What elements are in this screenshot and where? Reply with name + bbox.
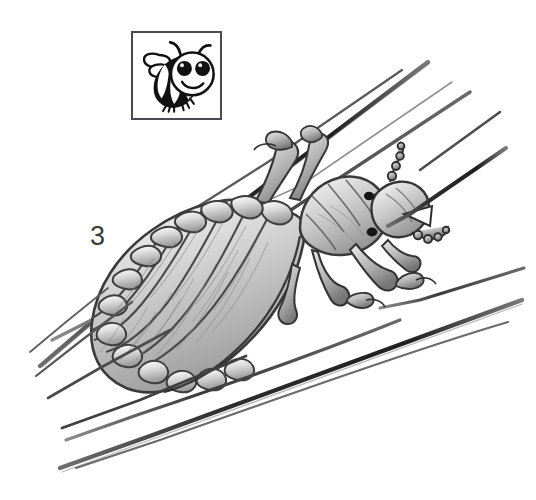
bee-head bbox=[171, 53, 214, 96]
cartoon-bee-icon bbox=[136, 36, 217, 115]
louse-eye-upper bbox=[364, 192, 374, 200]
louse-illustration bbox=[0, 0, 536, 500]
figure-page: 3 bbox=[0, 0, 536, 500]
bee-eye-left bbox=[177, 61, 192, 76]
louse-abdomen bbox=[91, 196, 305, 392]
bee-eye-right bbox=[195, 61, 210, 76]
louse-eye-lower bbox=[367, 228, 378, 237]
bee-logo-box bbox=[131, 31, 222, 120]
figure-number-label: 3 bbox=[90, 223, 105, 250]
